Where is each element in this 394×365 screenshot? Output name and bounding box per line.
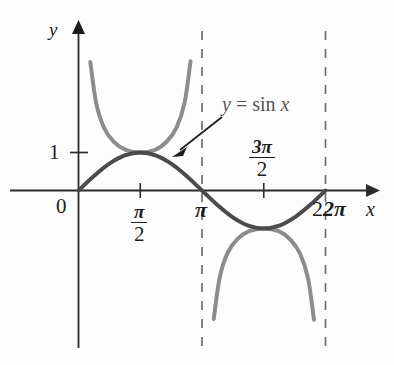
cosecant-curve-upper <box>90 61 190 152</box>
x-tick-label-3pi-over-2-numerator: 3π <box>249 137 275 158</box>
sine-curve-annotation-label: y = sin x <box>222 94 289 114</box>
graph-canvas <box>0 0 394 365</box>
origin-label: 0 <box>56 196 67 217</box>
y-axis-arrowhead <box>72 20 85 34</box>
annotation-sin: sin <box>252 93 275 115</box>
x-tick-label-pi-over-2-numerator: π <box>131 202 147 223</box>
x-tick-label-pi: π <box>195 199 207 221</box>
math-figure: y x 0 1 π 2 π 3π 2 22π y = sin x <box>0 0 394 365</box>
y-tick-label-1: 1 <box>49 142 60 163</box>
annotation-x: x <box>281 93 290 115</box>
x-tick-label-3pi-over-2-denominator: 2 <box>249 158 275 180</box>
x-tick-label-3pi-over-2: 3π 2 <box>249 137 275 180</box>
x-tick-label-2pi: 22π <box>312 198 346 220</box>
x-tick-label-2pi-glyph: 2π <box>323 196 346 221</box>
y-axis-label: y <box>49 20 57 39</box>
cosecant-curve-lower <box>214 229 314 320</box>
x-tick-label-pi-over-2: π 2 <box>131 202 147 245</box>
annotation-y: y <box>222 93 231 115</box>
x-axis-arrowhead <box>366 184 380 197</box>
annotation-equals: = <box>236 93 247 115</box>
x-tick-label-pi-over-2-denominator: 2 <box>131 223 147 245</box>
x-axis-label: x <box>366 199 375 219</box>
